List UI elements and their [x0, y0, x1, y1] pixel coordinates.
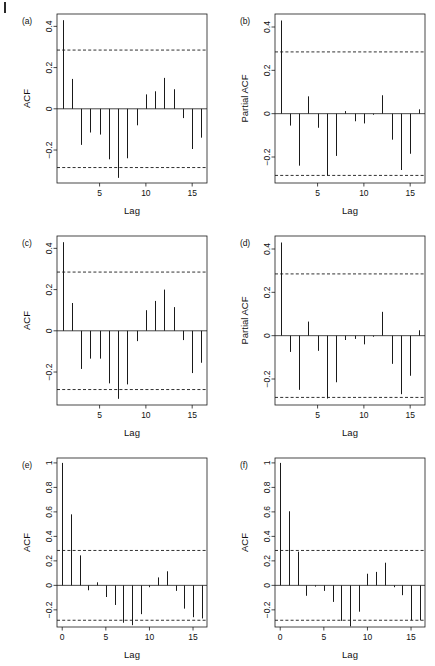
- plot-frame: [275, 236, 425, 405]
- y-tick-label: 0: [262, 333, 272, 338]
- y-axis-title: Partial ACF: [239, 296, 250, 344]
- y-tick-label: 0.4: [262, 21, 272, 33]
- plot-area-b: −0.200.20.451015: [218, 0, 435, 222]
- y-tick-label: 0.2: [262, 555, 272, 567]
- x-tick-label: 5: [103, 632, 108, 642]
- x-tick-label: 10: [363, 632, 373, 642]
- panel-b: −0.200.20.451015(b)Partial ACFLag: [218, 0, 435, 222]
- panel-d: −0.200.20.451015(d)Partial ACFLag: [218, 222, 435, 444]
- y-tick-label: 0.8: [44, 481, 54, 493]
- y-tick-label: 1: [44, 460, 54, 465]
- x-tick-label: 15: [187, 410, 197, 420]
- y-tick-label: 0.6: [262, 506, 272, 518]
- y-tick-label: 0.6: [44, 506, 54, 518]
- y-tick-label: 0.4: [44, 242, 54, 254]
- x-tick-label: 5: [97, 188, 102, 198]
- x-axis-title: Lag: [275, 205, 425, 216]
- x-axis-title: Lag: [57, 205, 207, 216]
- plot-area-d: −0.200.20.451015: [218, 222, 435, 444]
- x-tick-label: 10: [145, 632, 155, 642]
- y-tick-label: 0: [44, 328, 54, 333]
- y-tick-label: 0.2: [44, 61, 54, 73]
- x-tick-label: 0: [60, 632, 65, 642]
- acf-pacf-figure: −0.200.20.451015(a)ACFLag −0.200.20.4510…: [0, 0, 435, 666]
- x-tick-label: 15: [188, 632, 198, 642]
- y-tick-label: 0.2: [44, 283, 54, 295]
- plot-frame: [275, 14, 425, 183]
- x-tick-label: 15: [406, 632, 416, 642]
- x-axis-title: Lag: [57, 649, 207, 660]
- y-tick-label: 0.4: [262, 243, 272, 255]
- y-tick-label: −0.2: [262, 370, 272, 387]
- y-tick-label: 0.2: [262, 64, 272, 76]
- panel-label-c: (c): [22, 238, 32, 248]
- y-tick-label: 0.4: [262, 530, 272, 542]
- x-tick-label: 5: [315, 410, 320, 420]
- y-tick-label: 0.2: [262, 286, 272, 298]
- x-tick-label: 0: [278, 632, 283, 642]
- y-axis-title: ACF: [239, 533, 250, 552]
- y-axis-title: ACF: [21, 533, 32, 552]
- x-axis-title: Lag: [57, 427, 207, 438]
- y-tick-label: 0: [44, 583, 54, 588]
- y-tick-label: −0.2: [44, 363, 54, 380]
- panel-label-f: (f): [240, 460, 248, 470]
- y-axis-title: Partial ACF: [239, 74, 250, 122]
- y-tick-label: 1: [262, 460, 272, 465]
- panel-label-d: (d): [240, 238, 250, 248]
- y-tick-label: −0.2: [262, 148, 272, 165]
- plot-area-e: −0.200.20.40.60.81051015: [0, 444, 217, 666]
- panel-label-e: (e): [22, 460, 32, 470]
- y-axis-title: ACF: [21, 311, 32, 330]
- y-tick-label: 0.4: [44, 530, 54, 542]
- y-tick-label: 0: [262, 583, 272, 588]
- x-tick-label: 10: [141, 188, 151, 198]
- panel-a: −0.200.20.451015(a)ACFLag: [0, 0, 217, 222]
- plot-frame: [57, 236, 207, 405]
- x-tick-label: 10: [141, 410, 151, 420]
- x-tick-label: 10: [359, 410, 369, 420]
- plot-area-a: −0.200.20.451015: [0, 0, 217, 222]
- x-tick-label: 5: [321, 632, 326, 642]
- x-tick-label: 15: [405, 188, 415, 198]
- x-tick-label: 15: [187, 188, 197, 198]
- panel-e: −0.200.20.40.60.81051015(e)ACFLag: [0, 444, 217, 666]
- x-tick-label: 15: [405, 410, 415, 420]
- x-tick-label: 5: [315, 188, 320, 198]
- plot-area-f: −0.200.20.40.60.81051015: [218, 444, 435, 666]
- y-tick-label: −0.2: [44, 601, 54, 618]
- y-axis-title: ACF: [21, 89, 32, 108]
- x-tick-label: 5: [97, 410, 102, 420]
- x-axis-title: Lag: [275, 649, 425, 660]
- y-tick-label: 0.8: [262, 481, 272, 493]
- y-tick-label: 0: [44, 106, 54, 111]
- plot-area-c: −0.200.20.451015: [0, 222, 217, 444]
- y-tick-label: −0.2: [44, 141, 54, 158]
- plot-frame: [57, 14, 207, 183]
- y-tick-label: −0.2: [262, 601, 272, 618]
- y-tick-label: 0: [262, 111, 272, 116]
- x-axis-title: Lag: [275, 427, 425, 438]
- panel-c: −0.200.20.451015(c)ACFLag: [0, 222, 217, 444]
- y-tick-label: 0.2: [44, 555, 54, 567]
- y-tick-label: 0.4: [44, 20, 54, 32]
- panel-label-b: (b): [240, 16, 250, 26]
- x-tick-label: 10: [359, 188, 369, 198]
- panel-f: −0.200.20.40.60.81051015(f)ACFLag: [218, 444, 435, 666]
- panel-label-a: (a): [22, 16, 32, 26]
